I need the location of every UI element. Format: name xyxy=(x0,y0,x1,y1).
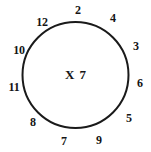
wheel-number-3: 6 xyxy=(137,77,143,89)
wheel-number-5: 9 xyxy=(96,134,102,146)
wheel-number-1: 4 xyxy=(110,12,116,24)
wheel-number-2: 3 xyxy=(133,40,139,52)
multiplication-wheel-worksheet: 2 4 3 6 5 9 7 8 11 10 12 X 7 xyxy=(0,0,151,152)
wheel-number-6: 7 xyxy=(61,135,67,147)
wheel-number-7: 8 xyxy=(30,116,36,128)
wheel-number-0: 2 xyxy=(75,4,81,16)
wheel-number-8: 11 xyxy=(9,81,20,93)
wheel-number-10: 12 xyxy=(36,16,48,28)
center-operation-label: X 7 xyxy=(65,68,87,81)
wheel-number-4: 5 xyxy=(126,112,132,124)
wheel-number-9: 10 xyxy=(13,44,25,56)
